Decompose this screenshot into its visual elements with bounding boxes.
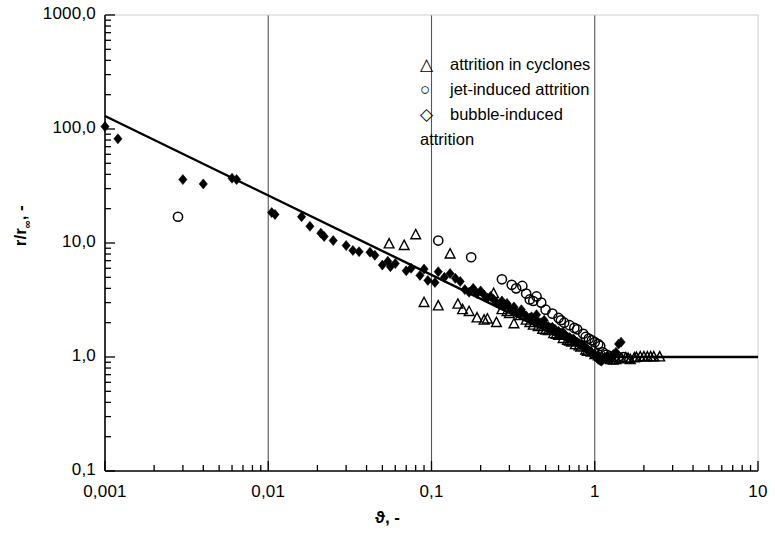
y-tick-label: 1000,0 — [43, 4, 96, 24]
y-axis-title: r/r∞, - — [11, 166, 32, 286]
chart-legend: △attrition in cyclones○jet-induced attri… — [420, 52, 730, 152]
legend-item: ◇bubble-induced — [420, 102, 730, 127]
y-tick-label: 100,0 — [52, 118, 96, 138]
circle-open-icon: ○ — [420, 77, 450, 102]
diamond-open-icon: ◇ — [420, 102, 450, 127]
triangle-open-icon: △ — [420, 52, 450, 77]
legend-label: attrition in cyclones — [450, 52, 590, 77]
y-tick-label: 1,0 — [72, 346, 96, 366]
infinity-subscript: ∞ — [21, 220, 33, 228]
y-tick-label: 10,0 — [62, 232, 96, 252]
legend-item: ○jet-induced attrition — [420, 77, 730, 102]
legend-label-continuation: attrition — [420, 127, 730, 152]
legend-label: jet-induced attrition — [450, 77, 589, 102]
legend-label: bubble-induced — [450, 102, 563, 127]
x-axis-title: ϑ, - — [0, 508, 775, 528]
data-points — [101, 122, 665, 367]
attrition-chart-figure: 0,11,010,0100,01000,0 0,0010,010,1110 r/… — [0, 0, 775, 541]
y-tick-label: 0,1 — [72, 460, 96, 480]
x-tick-label: 10 — [658, 482, 775, 502]
legend-item: △attrition in cyclones — [420, 52, 730, 77]
